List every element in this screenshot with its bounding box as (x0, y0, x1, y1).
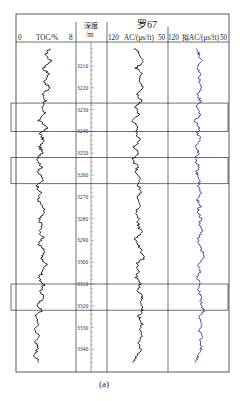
sim-ac-track-label: 拟AC/(μs/ft) (182, 34, 219, 42)
depth-label: 3270 (77, 194, 88, 200)
depth-label: 3220 (77, 85, 88, 91)
depth-label: 3320 (77, 303, 88, 309)
depth-label: 3280 (77, 216, 88, 222)
depth-label: 3250 (77, 150, 88, 156)
sim-ac-scale-min: 120 (168, 34, 179, 42)
figure-caption: (a) (99, 379, 109, 389)
ac-curve (132, 49, 145, 363)
toc-curve (34, 49, 53, 363)
depth-label: 3210 (77, 63, 88, 69)
depth-label: 3290 (77, 237, 88, 243)
highlight-interval-box (11, 103, 228, 131)
depth-label: 3240 (77, 128, 88, 134)
ac-track-label: AC/(μs/ft) (124, 34, 154, 42)
sim-ac-curve (194, 49, 205, 363)
depth-label: 3300 (77, 259, 88, 265)
toc-track-label: TOC/% (36, 34, 58, 42)
depth-unit-label: /m (86, 31, 94, 39)
well-log-figure: 罗67 0 TOC/% 8 深度 /m 120 AC/(μs/ft) 50 12… (0, 0, 245, 401)
depth-label: 3230 (77, 107, 88, 113)
depth-label: 3330 (77, 325, 88, 331)
depth-label: 3340 (77, 346, 88, 352)
ac-scale-min: 120 (108, 34, 119, 42)
ac-scale-max: 50 (158, 34, 165, 42)
toc-scale-max: 8 (69, 34, 73, 42)
depth-label: 3310 (77, 281, 88, 287)
well-log-plot (0, 0, 245, 401)
depth-track-label: 深度 (84, 22, 98, 30)
toc-scale-min: 0 (18, 34, 22, 42)
well-name-title: 罗67 (137, 19, 157, 30)
sim-ac-scale-max: 50 (220, 34, 227, 42)
depth-label: 3260 (77, 172, 88, 178)
